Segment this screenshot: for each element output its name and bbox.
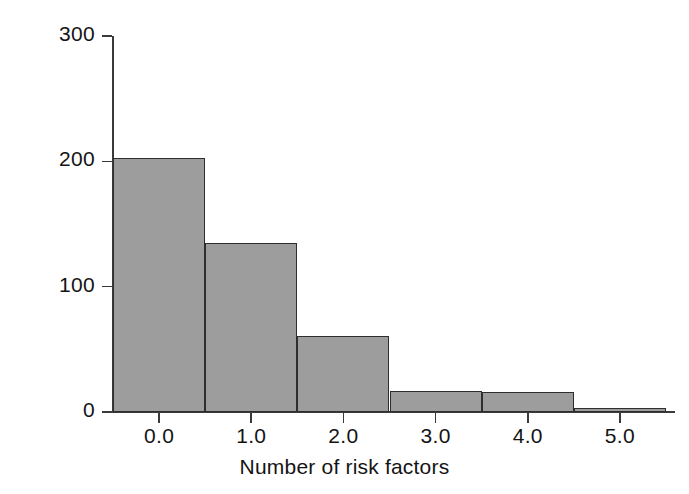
x-axis-tick [343, 412, 345, 423]
histogram-bar [113, 158, 205, 412]
x-axis-tick-label: 3.0 [396, 424, 476, 448]
histogram-figure: Outcome variable 0100200300 0.01.02.03.0… [0, 0, 689, 494]
x-axis-tick [619, 412, 621, 423]
x-axis-title: Number of risk factors [0, 455, 689, 479]
x-axis-tick-label: 4.0 [488, 424, 568, 448]
x-axis-tick-label: 0.0 [119, 424, 199, 448]
y-axis-tick [102, 161, 112, 163]
x-axis-tick-label: 2.0 [303, 424, 383, 448]
x-axis-tick [527, 412, 529, 423]
y-axis-tick [102, 411, 112, 413]
x-axis-tick-label: 5.0 [580, 424, 660, 448]
y-axis-tick-label: 100 [0, 273, 95, 297]
x-axis-tick [158, 412, 160, 423]
y-axis-tick [102, 35, 112, 37]
histogram-bar [297, 336, 389, 412]
histogram-bar [390, 391, 482, 412]
histogram-bar [205, 243, 297, 412]
y-axis-tick-label: 300 [0, 22, 95, 46]
y-axis-tick [102, 286, 112, 288]
x-axis-tick-label: 1.0 [211, 424, 291, 448]
y-axis-tick-label: 200 [0, 147, 95, 171]
x-axis-tick [250, 412, 252, 423]
x-axis-tick [435, 412, 437, 423]
y-axis-tick-label: 0 [0, 398, 95, 422]
histogram-bar [482, 392, 574, 412]
